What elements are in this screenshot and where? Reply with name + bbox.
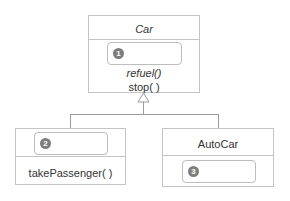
method-take-passenger: takePassenger( ): [16, 166, 125, 180]
class-autocar-name: AutoCar: [163, 137, 273, 151]
badge-3: 3: [188, 166, 199, 177]
class-child-left: 2 takePassenger( ): [15, 128, 126, 185]
class-child-left-divider: [16, 156, 125, 157]
blank-slot-2: 2: [34, 132, 108, 155]
class-autocar-divider: [163, 155, 273, 156]
badge-2: 2: [40, 138, 51, 149]
blank-slot-3: 3: [182, 160, 256, 183]
class-autocar: AutoCar 3: [162, 128, 274, 187]
